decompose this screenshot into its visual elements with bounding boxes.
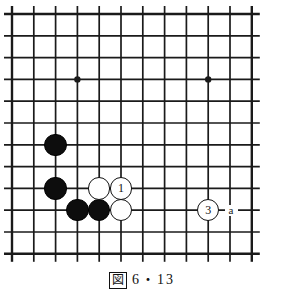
caption-badge: 図	[109, 272, 127, 289]
go-board-figure: 13 a 図 6・13	[0, 0, 284, 302]
figure-caption: 図 6・13	[0, 272, 284, 302]
stone-black[interactable]	[44, 134, 66, 156]
stone-black[interactable]	[44, 177, 66, 199]
stone-white-move-1[interactable]: 1	[110, 177, 132, 199]
star-point	[74, 76, 80, 82]
star-point	[205, 76, 211, 82]
caption-text: 6・13	[132, 272, 175, 287]
stone-white[interactable]	[88, 177, 110, 199]
go-board-grid	[0, 0, 284, 270]
move-number: 1	[118, 182, 124, 194]
stone-black[interactable]	[66, 199, 88, 221]
move-number: 3	[205, 204, 211, 216]
go-board[interactable]: 13 a	[0, 0, 284, 270]
point-label-a[interactable]: a	[225, 205, 238, 216]
